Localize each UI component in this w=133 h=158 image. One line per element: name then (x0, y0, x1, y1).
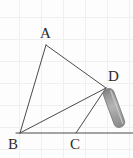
segment-ad (46, 45, 106, 88)
vertex-label-a: A (40, 26, 51, 41)
vertex-label-c: C (70, 137, 80, 152)
segment-ab (20, 45, 46, 133)
vertex-label-d: D (108, 69, 119, 84)
vertex-label-b: B (8, 137, 18, 152)
geometry-figure: A B C D (0, 0, 133, 158)
segment-bd (20, 88, 106, 133)
segment-cd (76, 88, 106, 133)
pencil-icon (102, 87, 126, 129)
